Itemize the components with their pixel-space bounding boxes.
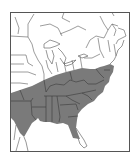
- great-lakes: [44, 40, 88, 66]
- range-map: [0, 0, 137, 154]
- species-range-area: [11, 64, 114, 139]
